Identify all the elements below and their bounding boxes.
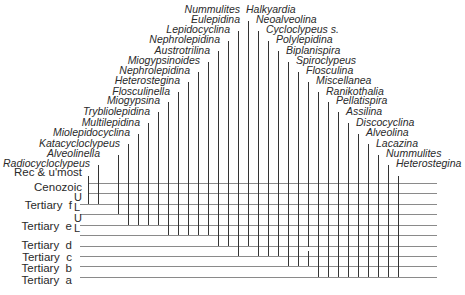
- taxon-label: Flosculinella: [112, 86, 170, 97]
- taxon-label: Lepidocyclina: [166, 24, 230, 35]
- stage-label: Tertiary f: [25, 199, 72, 211]
- stage-label: Tertiary a: [22, 274, 73, 286]
- taxon-label: Nummulites: [185, 4, 240, 15]
- taxon-label: Miogypsinoides: [128, 55, 200, 66]
- taxon-label: Nephrolepidina: [119, 65, 190, 76]
- stage-label: Tertiary b: [22, 262, 73, 274]
- taxon-label: Trybliolepidina: [83, 106, 150, 117]
- stage-label: Tertiary e: [22, 220, 73, 232]
- taxon-label: Miolepidocyclina: [53, 127, 130, 138]
- taxon-label: Heterostegina: [396, 158, 461, 169]
- taxon-label: Austrotrilina: [155, 45, 210, 56]
- taxon-label: Multilepidina: [82, 117, 140, 128]
- taxon-label: Katacycloclypeus: [39, 138, 120, 149]
- stage-label: Tertiary d: [22, 239, 73, 251]
- stage-label: Rec & u'most: [14, 166, 82, 178]
- taxon-label: Heterostegina: [115, 75, 180, 86]
- substage-label: L: [74, 223, 80, 234]
- taxon-label: Nephrolepidina: [149, 34, 220, 45]
- taxon-label: Eulepidina: [191, 14, 240, 25]
- taxon-label: Alveolinella: [47, 148, 100, 159]
- foraminifera-range-chart: RadiocycloclypeusAlveolinellaKatacyclocl…: [0, 0, 465, 295]
